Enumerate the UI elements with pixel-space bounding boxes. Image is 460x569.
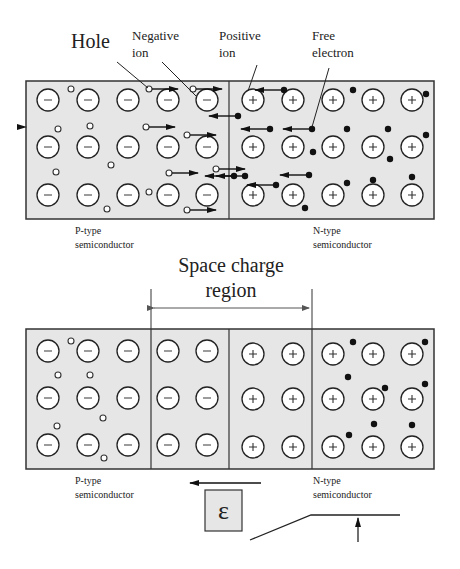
space-charge-label-line2: region — [205, 279, 256, 302]
top-diagram: Hole Negative ion Positive ion Free elec… — [26, 28, 434, 250]
negative-ion-label-line1: Negative — [132, 28, 179, 43]
p-type-label-bottom-line2: semiconductor — [75, 489, 135, 500]
free-electron-label-line2: electron — [312, 45, 354, 60]
space-charge-label-line1: Space charge — [178, 254, 284, 277]
negative-ion-label-line2: ion — [132, 45, 149, 60]
bottom-diagram: P-type semiconductor N-type semiconducto… — [26, 329, 434, 542]
n-type-label-top-line1: N-type — [313, 225, 341, 236]
p-type-label-bottom-line1: P-type — [75, 475, 102, 486]
potential-profile-curve — [250, 515, 400, 540]
n-type-label-bottom-line1: N-type — [313, 475, 341, 486]
pn-junction-diagram: Hole Negative ion Positive ion Free elec… — [0, 0, 460, 569]
hole-label: Hole — [71, 30, 110, 52]
positive-ion-label-line2: ion — [219, 45, 236, 60]
space-charge-annotation: Space charge region — [151, 254, 312, 329]
positive-ion-label-line1: Positive — [219, 28, 261, 43]
electric-field-symbol: ε — [218, 496, 229, 525]
n-type-label-bottom-line2: semiconductor — [313, 489, 373, 500]
n-type-label-top-line2: semiconductor — [313, 239, 373, 250]
p-type-label-top-line2: semiconductor — [75, 239, 135, 250]
p-type-label-top-line1: P-type — [75, 225, 102, 236]
free-electron-label-line1: Free — [312, 28, 335, 43]
